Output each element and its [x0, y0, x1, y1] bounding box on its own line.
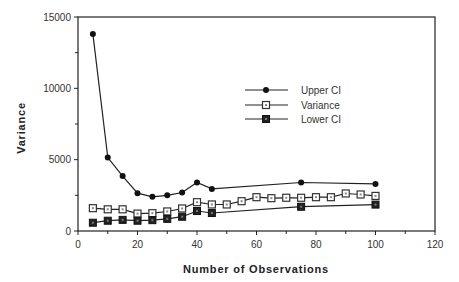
marker-center	[360, 193, 362, 195]
marker-center	[265, 104, 267, 106]
marker-center	[345, 192, 347, 194]
marker-center	[300, 197, 302, 199]
legend-item-upper-ci: Upper CI	[245, 85, 341, 96]
marker-center	[265, 118, 267, 120]
marker-center	[107, 208, 109, 210]
marker-center	[270, 197, 272, 199]
marker-dot	[194, 179, 200, 185]
x-tick-label: 60	[251, 239, 263, 250]
marker-center	[181, 216, 183, 218]
marker-center	[375, 195, 377, 197]
marker-center	[285, 197, 287, 199]
legend-label: Upper CI	[301, 85, 341, 96]
marker-center	[211, 212, 213, 214]
x-tick-label: 80	[310, 239, 322, 250]
marker-dot	[120, 173, 126, 179]
legend-label: Lower CI	[301, 114, 341, 125]
marker-center	[256, 196, 258, 198]
x-tick-label: 100	[367, 239, 384, 250]
marker-center	[181, 207, 183, 209]
y-tick-label: 5000	[49, 154, 72, 165]
marker-center	[300, 206, 302, 208]
legend-item-lower-ci: Lower CI	[245, 114, 341, 125]
marker-center	[137, 213, 139, 215]
x-axis-title: Number of Observations	[183, 263, 329, 275]
marker-center	[137, 220, 139, 222]
marker-dot	[164, 192, 170, 198]
marker-dot	[149, 194, 155, 200]
marker-dot	[90, 31, 96, 37]
marker-center	[196, 201, 198, 203]
marker-center	[107, 220, 109, 222]
marker-center	[315, 196, 317, 198]
marker-dot	[179, 189, 185, 195]
marker-dot	[105, 155, 111, 161]
x-tick-label: 20	[132, 239, 144, 250]
series-lower-ci	[89, 201, 379, 226]
marker-center	[375, 204, 377, 206]
legend-item-variance: Variance	[245, 100, 340, 111]
marker-center	[151, 219, 153, 221]
marker-dot	[263, 87, 269, 93]
marker-center	[122, 208, 124, 210]
x-tick-label: 120	[427, 239, 444, 250]
marker-center	[196, 210, 198, 212]
marker-dot	[298, 179, 304, 185]
x-tick-label: 40	[191, 239, 203, 250]
marker-center	[211, 203, 213, 205]
y-tick-label: 10000	[43, 83, 71, 94]
y-tick-label: 0	[65, 226, 71, 237]
marker-center	[330, 196, 332, 198]
marker-center	[166, 210, 168, 212]
marker-center	[92, 207, 94, 209]
marker-center	[166, 218, 168, 220]
x-tick-label: 0	[75, 239, 81, 250]
y-tick-label: 15000	[43, 12, 71, 23]
series-variance	[89, 190, 379, 217]
axes: 020406080100120050001000015000	[43, 12, 444, 251]
marker-center	[241, 200, 243, 202]
marker-dot	[209, 186, 215, 192]
legend-label: Variance	[301, 100, 340, 111]
legend: Upper CIVarianceLower CI	[245, 85, 341, 125]
marker-center	[92, 222, 94, 224]
marker-center	[151, 212, 153, 214]
marker-dot	[373, 181, 379, 187]
series-lines	[89, 31, 379, 226]
marker-center	[226, 203, 228, 205]
line-chart: 020406080100120050001000015000 Upper CIV…	[0, 0, 459, 282]
y-axis-title: Variance	[15, 102, 27, 154]
marker-dot	[135, 190, 141, 196]
marker-center	[122, 219, 124, 221]
